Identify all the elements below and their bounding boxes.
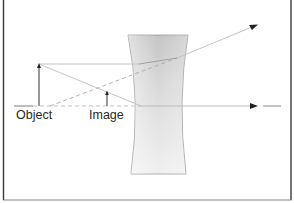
- ray-diagram: [0, 0, 294, 203]
- ray-arrowhead-icon: [249, 25, 258, 31]
- image-label: Image: [89, 109, 124, 122]
- central-ray: [39, 64, 141, 106]
- object-arrow: [37, 63, 41, 106]
- axis-arrowhead-icon: [250, 103, 258, 109]
- object-label: Object: [16, 109, 52, 122]
